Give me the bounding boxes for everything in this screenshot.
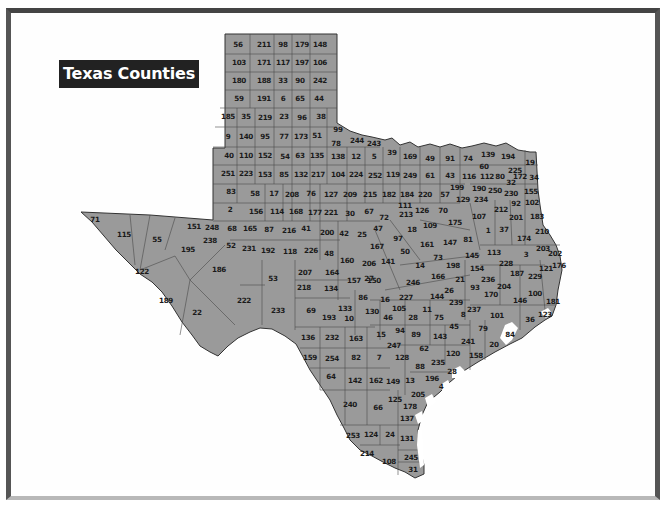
county-label: 81 [463, 236, 472, 243]
county-label: 38 [316, 113, 325, 120]
county-label: 246 [406, 279, 420, 286]
county-label: 89 [411, 331, 420, 338]
county-label: 93 [470, 284, 479, 291]
county-label: 188 [257, 77, 271, 84]
county-label: 99 [333, 126, 342, 133]
county-label: 226 [304, 247, 318, 254]
county-label: 11 [422, 306, 431, 313]
county-label: 57 [440, 191, 449, 198]
county-label: 49 [425, 155, 434, 162]
county-label: 150 [367, 277, 381, 284]
county-label: 227 [399, 294, 413, 301]
county-label: 100 [528, 290, 542, 297]
county-label: 82 [351, 354, 360, 361]
county-label: 40 [224, 152, 233, 159]
county-label: 34 [529, 174, 538, 181]
county-label: 35 [241, 113, 250, 120]
county-label: 195 [181, 246, 195, 253]
county-label: 112 [480, 173, 494, 180]
county-label: 1 [486, 227, 491, 234]
county-label: 219 [258, 114, 272, 121]
county-label: 124 [364, 431, 378, 438]
county-label: 230 [504, 190, 518, 197]
county-label: 213 [399, 211, 413, 218]
county-label: 157 [347, 277, 361, 284]
county-label: 202 [548, 250, 562, 257]
county-label: 238 [203, 237, 217, 244]
county-label: 208 [285, 191, 299, 198]
county-label: 237 [467, 306, 481, 313]
county-label: 223 [239, 170, 253, 177]
county-label: 18 [407, 226, 416, 233]
county-label: 46 [383, 314, 392, 321]
county-label: 161 [420, 241, 434, 248]
county-label: 233 [271, 307, 285, 314]
county-label: 183 [530, 213, 544, 220]
county-label: 58 [250, 190, 259, 197]
county-label: 114 [270, 208, 284, 215]
county-label: 84 [505, 331, 514, 338]
county-label: 205 [411, 391, 425, 398]
county-label: 83 [226, 188, 235, 195]
county-label: 36 [525, 316, 534, 323]
county-label: 206 [362, 260, 376, 267]
county-label: 61 [425, 172, 434, 179]
county-label: 144 [430, 293, 444, 300]
county-label: 52 [226, 242, 235, 249]
county-label: 215 [363, 191, 377, 198]
county-label: 220 [418, 191, 432, 198]
county-label: 19 [525, 159, 534, 166]
county-label: 249 [403, 172, 417, 179]
county-label: 160 [340, 257, 354, 264]
county-label: 23 [279, 113, 288, 120]
county-label: 156 [249, 208, 263, 215]
county-label: 37 [499, 226, 508, 233]
county-label: 75 [434, 314, 443, 321]
county-label: 33 [278, 77, 287, 84]
county-label: 212 [494, 206, 508, 213]
county-label: 224 [349, 171, 363, 178]
county-label: 229 [528, 273, 542, 280]
county-label: 194 [501, 153, 515, 160]
county-label: 198 [446, 262, 460, 269]
county-label: 91 [445, 155, 454, 162]
county-label: 174 [517, 235, 531, 242]
county-label: 216 [282, 227, 296, 234]
county-label: 15 [376, 331, 385, 338]
county-label: 199 [450, 184, 464, 191]
county-label: 98 [278, 41, 287, 48]
county-label: 247 [387, 342, 401, 349]
county-label: 181 [546, 298, 560, 305]
county-label: 141 [381, 258, 395, 265]
county-label: 71 [90, 216, 99, 223]
county-label: 130 [365, 308, 379, 315]
county-label: 4 [439, 383, 444, 390]
county-label: 133 [338, 305, 352, 312]
county-label: 128 [395, 354, 409, 361]
county-label: 44 [314, 95, 323, 102]
county-label: 54 [280, 153, 289, 160]
county-label: 185 [221, 113, 235, 120]
county-label: 184 [400, 191, 414, 198]
county-label: 68 [227, 225, 236, 232]
county-label: 159 [303, 354, 317, 361]
county-label: 60 [479, 163, 488, 170]
county-label: 200 [320, 229, 334, 236]
county-label: 17 [269, 190, 278, 197]
county-label: 69 [306, 307, 315, 314]
county-label: 94 [395, 327, 404, 334]
county-label: 243 [367, 140, 381, 147]
county-label: 104 [331, 171, 345, 178]
county-label: 21 [455, 276, 464, 283]
county-label: 235 [431, 359, 445, 366]
county-label: 122 [135, 268, 149, 275]
county-label: 147 [443, 239, 457, 246]
county-label: 166 [431, 273, 445, 280]
county-label: 85 [279, 171, 288, 178]
county-label: 43 [445, 172, 454, 179]
county-label: 254 [325, 355, 339, 362]
county-label: 171 [257, 59, 271, 66]
county-label: 145 [465, 252, 479, 259]
county-label: 59 [234, 95, 243, 102]
county-label: 116 [462, 173, 476, 180]
